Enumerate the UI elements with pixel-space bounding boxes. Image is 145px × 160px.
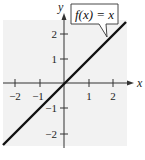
x-tick-label: 1 [86,90,92,102]
y-tick-label: −2 [45,128,57,140]
y-axis-arrow-icon [62,13,67,20]
function-label: f(x) = x [75,7,114,22]
chart: −2 −1 1 2 2 1 −1 −2 x y f(x) = x [0,0,145,160]
y-axis-label: y [57,0,64,14]
y-tick-label: 2 [52,28,58,40]
x-axis-label: x [136,76,143,90]
x-axis-arrow-icon [127,81,134,86]
x-tick-label: 2 [110,90,116,102]
y-tick-label: −1 [45,102,57,114]
y-tick-label: 1 [52,53,58,65]
x-tick-label: −2 [9,90,21,102]
x-tick-label: −1 [32,90,44,102]
